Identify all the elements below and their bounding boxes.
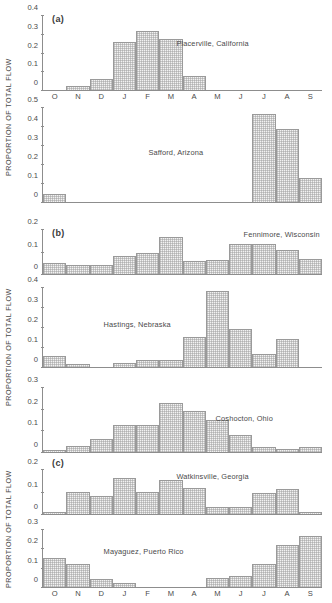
bar bbox=[113, 42, 136, 90]
bar-slot-j-9 bbox=[252, 530, 275, 587]
bar bbox=[66, 86, 89, 90]
y-axis-tick bbox=[41, 90, 44, 91]
bar-slot-f-4 bbox=[136, 16, 159, 90]
x-axis-tick-label: N bbox=[66, 589, 89, 598]
x-axis-line bbox=[42, 274, 322, 275]
x-axis-tick-label: J bbox=[113, 589, 136, 598]
x-axis-tick-label: M bbox=[206, 589, 229, 598]
bar bbox=[252, 564, 275, 587]
y-axis-tick-label: 0.2 bbox=[27, 40, 38, 49]
bar bbox=[252, 447, 275, 452]
x-axis-tick-label: J bbox=[229, 589, 252, 598]
y-axis-title-group-b: PROPORTION OF TOTAL FLOW bbox=[2, 245, 14, 450]
bar-slot-a-10 bbox=[276, 288, 299, 367]
bar bbox=[90, 79, 113, 90]
bar-slot-o-0 bbox=[43, 530, 66, 587]
y-axis-tick bbox=[41, 367, 44, 368]
x-axis-tick-label: O bbox=[43, 589, 66, 598]
bar-slot-m-7 bbox=[206, 108, 229, 202]
site-label: Mayaguez, Puerto Rico bbox=[104, 547, 184, 556]
y-axis-tick-label: 0.4 bbox=[27, 3, 38, 12]
x-axis-tick-label: O bbox=[43, 92, 66, 101]
bar-slot-j-3 bbox=[113, 530, 136, 587]
plot-area: 00.10.20.30.40.5Safford, Arizona bbox=[42, 108, 322, 203]
x-axis-tick-label: M bbox=[206, 92, 229, 101]
bar-slot-m-7 bbox=[206, 530, 229, 587]
bar bbox=[183, 76, 206, 90]
site-label: Placerville, California bbox=[176, 39, 248, 48]
y-axis-tick-label: 0 bbox=[34, 355, 38, 364]
bar-slot-m-7 bbox=[206, 288, 229, 367]
bar-slot-d-2 bbox=[90, 388, 113, 452]
plot-area: 00.10.2Watkinsville, Georgia bbox=[42, 470, 322, 515]
bar bbox=[136, 253, 159, 274]
bar bbox=[299, 259, 322, 274]
bar-slot-f-4 bbox=[136, 470, 159, 514]
bar bbox=[159, 480, 182, 514]
x-axis-tick-label: J bbox=[229, 92, 252, 101]
bar-slot-d-2 bbox=[90, 16, 113, 90]
bar bbox=[206, 578, 229, 587]
bar-slot-m-5 bbox=[159, 388, 182, 452]
plot-area: 00.10.2Fennimore, Wisconsin bbox=[42, 230, 322, 275]
bar bbox=[159, 403, 182, 452]
bar-slot-a-10 bbox=[276, 108, 299, 202]
bar-slot-f-4 bbox=[136, 530, 159, 587]
bar bbox=[90, 496, 113, 514]
y-axis-tick-label: 0.2 bbox=[27, 152, 38, 161]
x-axis-tick-label: A bbox=[183, 589, 206, 598]
x-axis-line bbox=[42, 202, 322, 203]
bar-slot-s-11 bbox=[299, 530, 322, 587]
bar bbox=[183, 488, 206, 514]
x-axis-line bbox=[42, 90, 322, 91]
bar bbox=[206, 260, 229, 274]
x-axis-tick-label: A bbox=[276, 589, 299, 598]
bar-slot-o-0 bbox=[43, 470, 66, 514]
bar-slot-a-6 bbox=[183, 530, 206, 587]
bar bbox=[43, 263, 66, 274]
y-axis-tick-label: 0.3 bbox=[27, 517, 38, 526]
y-axis-tick-label: 0.1 bbox=[27, 59, 38, 68]
bar-slot-o-0 bbox=[43, 388, 66, 452]
bar bbox=[66, 446, 89, 452]
bar bbox=[229, 244, 252, 274]
bar bbox=[252, 493, 275, 514]
bar-slot-j-3 bbox=[113, 16, 136, 90]
bar-slot-m-5 bbox=[159, 16, 182, 90]
plot-area: 00.10.20.3Coshocton, Ohio bbox=[42, 388, 322, 453]
bar bbox=[229, 329, 252, 367]
bar bbox=[90, 265, 113, 274]
bar-slot-m-5 bbox=[159, 530, 182, 587]
site-label: Safford, Arizona bbox=[148, 148, 203, 157]
x-axis-line bbox=[42, 514, 322, 515]
y-axis-tick-label: 0 bbox=[34, 502, 38, 511]
panel-coshocton: 00.10.20.3Coshocton, Ohio bbox=[42, 388, 322, 453]
site-label: Coshocton, Ohio bbox=[216, 414, 273, 423]
bar-slot-f-4 bbox=[136, 388, 159, 452]
bar-slot-j-8 bbox=[229, 16, 252, 90]
bar-slot-f-4 bbox=[136, 230, 159, 274]
bar-slot-j-8 bbox=[229, 108, 252, 202]
y-axis-tick-label: 0 bbox=[34, 190, 38, 199]
bar bbox=[299, 178, 322, 202]
bar bbox=[43, 450, 66, 452]
multi-panel-bar-chart-figure: PROPORTION OF TOTAL FLOW PROPORTION OF T… bbox=[0, 0, 332, 603]
bar bbox=[206, 507, 229, 514]
bar bbox=[66, 492, 89, 514]
y-axis-tick-label: 0.1 bbox=[27, 239, 38, 248]
y-axis-tick bbox=[41, 274, 44, 275]
bar bbox=[43, 356, 66, 367]
bar-slot-a-6 bbox=[183, 230, 206, 274]
bar-slot-j-3 bbox=[113, 108, 136, 202]
panel-fennimore: 00.10.2Fennimore, Wisconsin bbox=[42, 230, 322, 275]
bar-slot-n-1 bbox=[66, 16, 89, 90]
bar bbox=[183, 411, 206, 452]
bar-slot-a-10 bbox=[276, 16, 299, 90]
y-axis-tick-label: 0.4 bbox=[27, 114, 38, 123]
bar bbox=[276, 339, 299, 367]
bar bbox=[276, 545, 299, 587]
x-axis-tick-label: A bbox=[183, 92, 206, 101]
panel-tag-c: (c) bbox=[52, 458, 64, 468]
bar bbox=[299, 447, 322, 452]
y-axis-title-group-c: PROPORTION OF TOTAL FLOW bbox=[2, 462, 14, 597]
